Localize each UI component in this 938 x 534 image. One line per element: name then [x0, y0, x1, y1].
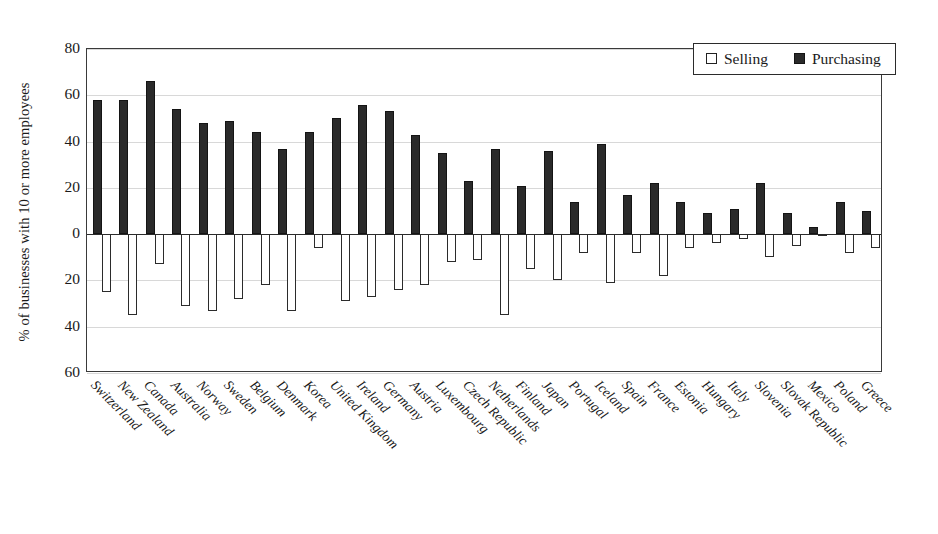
bar-purchasing	[517, 186, 526, 235]
bar-purchasing	[676, 202, 685, 234]
y-tick-label: 80	[38, 40, 80, 56]
bar-selling	[447, 234, 456, 262]
bar-purchasing	[756, 183, 765, 234]
y-tick-label: 60	[38, 87, 80, 103]
bar-selling	[234, 234, 243, 299]
bar-purchasing	[491, 149, 500, 235]
bar-column	[379, 49, 406, 371]
x-axis-tick-labels: SwitzerlandNew ZealandCanadaAustraliaNor…	[86, 372, 882, 534]
bar-column	[114, 49, 141, 371]
bar-purchasing	[650, 183, 659, 234]
bar-column	[273, 49, 300, 371]
bar-selling	[314, 234, 323, 248]
y-tick-label: 60	[38, 364, 80, 380]
bar-selling	[341, 234, 350, 301]
bar-purchasing	[544, 151, 553, 234]
bar-column	[405, 49, 432, 371]
bar-purchasing	[623, 195, 632, 234]
bar-purchasing	[252, 132, 261, 234]
y-axis-tick-labels: 806040200204060	[38, 0, 80, 534]
bar-column	[193, 49, 220, 371]
bar-column	[565, 49, 592, 371]
bar-column	[299, 49, 326, 371]
bar-selling	[579, 234, 588, 253]
bar-column	[697, 49, 724, 371]
bar-column	[432, 49, 459, 371]
legend-swatch-filled-icon	[794, 53, 805, 64]
bar-purchasing	[809, 227, 818, 234]
bar-selling	[420, 234, 429, 285]
bar-selling	[818, 234, 827, 236]
y-tick-label: 20	[38, 272, 80, 288]
bar-purchasing	[836, 202, 845, 234]
bar-selling	[367, 234, 376, 296]
bar-column	[803, 49, 830, 371]
bar-purchasing	[358, 105, 367, 235]
bar-column	[591, 49, 618, 371]
bar-column	[140, 49, 167, 371]
bar-purchasing	[597, 144, 606, 234]
bar-column	[830, 49, 857, 371]
bar-purchasing	[703, 213, 712, 234]
bar-selling	[261, 234, 270, 285]
bar-selling	[394, 234, 403, 290]
bar-column	[750, 49, 777, 371]
bar-selling	[553, 234, 562, 280]
bar-column	[485, 49, 512, 371]
bar-purchasing	[570, 202, 579, 234]
legend-label: Selling	[724, 51, 768, 67]
y-tick-label: 40	[38, 133, 80, 149]
bar-selling	[871, 234, 880, 248]
bar-selling	[473, 234, 482, 259]
bar-purchasing	[730, 209, 739, 234]
bar-chart: % of businesses with 10 or more employee…	[0, 0, 938, 534]
bar-purchasing	[93, 100, 102, 234]
bar-purchasing	[225, 121, 234, 234]
plot-area	[86, 48, 882, 372]
bar-column	[458, 49, 485, 371]
bar-purchasing	[862, 211, 871, 234]
bar-purchasing	[385, 111, 394, 234]
y-tick-label: 40	[38, 318, 80, 334]
bar-selling	[526, 234, 535, 269]
y-axis-title: % of businesses with 10 or more employee…	[11, 2, 37, 422]
bar-selling	[102, 234, 111, 292]
legend-item: Selling	[706, 51, 768, 67]
bar-column	[856, 49, 883, 371]
y-tick-label: 20	[38, 179, 80, 195]
bar-column	[671, 49, 698, 371]
bar-purchasing	[172, 109, 181, 234]
bar-selling	[155, 234, 164, 264]
bar-selling	[128, 234, 137, 315]
bar-selling	[500, 234, 509, 315]
bar-purchasing	[783, 213, 792, 234]
bar-column	[538, 49, 565, 371]
y-tick-label: 0	[38, 225, 80, 241]
bar-selling	[739, 234, 748, 239]
bar-column	[352, 49, 379, 371]
bar-purchasing	[438, 153, 447, 234]
bar-purchasing	[278, 149, 287, 235]
bar-selling	[606, 234, 615, 283]
bar-purchasing	[119, 100, 128, 234]
bar-purchasing	[305, 132, 314, 234]
bar-selling	[632, 234, 641, 253]
bar-selling	[765, 234, 774, 257]
bar-column	[220, 49, 247, 371]
bar-column	[246, 49, 273, 371]
bar-purchasing	[199, 123, 208, 234]
bar-column	[644, 49, 671, 371]
legend-label: Purchasing	[812, 51, 881, 67]
bar-selling	[181, 234, 190, 306]
bar-purchasing	[146, 81, 155, 234]
bar-selling	[659, 234, 668, 276]
legend-item: Purchasing	[794, 51, 881, 67]
bar-selling	[685, 234, 694, 248]
bar-selling	[208, 234, 217, 310]
bar-column	[326, 49, 353, 371]
bar-column	[512, 49, 539, 371]
bar-selling	[712, 234, 721, 243]
bar-group	[87, 49, 881, 371]
bar-selling	[287, 234, 296, 310]
bar-selling	[792, 234, 801, 246]
